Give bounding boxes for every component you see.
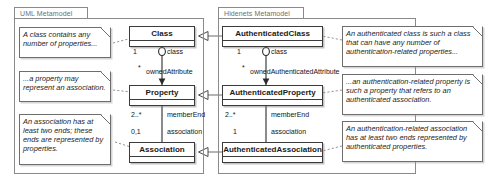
note-hidenets-class-text: An authenticated class is such a class t…	[346, 29, 470, 56]
uml-diagram-canvas: UML Metamodel Hidenets Metamodel Class P…	[0, 0, 487, 187]
class-box-property[interactable]: Property	[129, 85, 195, 106]
class-name-class: Class	[130, 27, 194, 41]
note-hidenets-property-text: ...an authentication-related property is…	[346, 77, 470, 104]
multiplicity-class-left: 1	[133, 48, 137, 56]
multiplicity-member-end-left: 2..*	[131, 111, 142, 119]
multiplicity-member-end-right: 2..*	[225, 111, 236, 119]
note-hidenets-class[interactable]: An authenticated class is such a class t…	[342, 26, 483, 67]
multiplicity-association-right: 1	[233, 128, 237, 136]
note-uml-association[interactable]: An association has at least two ends; th…	[19, 114, 111, 165]
note-uml-class[interactable]: A class contains any number of propertie…	[19, 27, 111, 58]
role-label-owned-attribute-right: ownedAuthenticatedAttribute	[250, 68, 340, 76]
class-box-authenticatedassociation[interactable]: AuthenticatedAssociation	[222, 142, 323, 163]
class-compartment	[130, 41, 194, 46]
package-tab-uml: UML Metamodel	[14, 7, 88, 18]
note-uml-class-text: A class contains any number of propertie…	[23, 30, 97, 48]
class-box-association[interactable]: Association	[129, 142, 195, 163]
class-name-property: Property	[130, 86, 194, 100]
note-hidenets-association-text: An authentication-related association ha…	[346, 124, 467, 151]
role-label-class-right: class	[271, 48, 287, 56]
class-name-authenticatedassociation: AuthenticatedAssociation	[223, 143, 322, 157]
class-name-association: Association	[130, 143, 194, 157]
multiplicity-association-left: 0,1	[131, 128, 141, 136]
class-name-authenticatedclass: AuthenticatedClass	[223, 27, 322, 41]
multiplicity-class-right: 1	[237, 48, 241, 56]
role-label-member-end-right: memberEnd	[271, 111, 309, 119]
class-compartment	[223, 157, 322, 162]
role-label-association-right: association	[271, 128, 306, 136]
class-compartment	[130, 100, 194, 105]
note-uml-property[interactable]: ...a property may represent an associati…	[19, 71, 111, 102]
package-tab-uml-label: UML Metamodel	[20, 10, 72, 17]
multiplicity-owned-attribute-right: *	[242, 64, 245, 72]
class-box-authenticatedproperty[interactable]: AuthenticatedProperty	[222, 85, 323, 106]
class-compartment	[223, 41, 322, 46]
role-label-owned-attribute-left: ownedAttribute	[146, 68, 193, 76]
note-uml-property-text: ...a property may represent an associati…	[23, 74, 106, 92]
note-hidenets-association[interactable]: An authentication-related association ha…	[342, 121, 483, 162]
package-tab-hidenets: Hidenets Metamodel	[218, 7, 304, 18]
multiplicity-owned-attribute-left: *	[138, 64, 141, 72]
class-compartment	[130, 157, 194, 162]
note-hidenets-property[interactable]: ...an authentication-related property is…	[342, 74, 483, 115]
note-uml-association-text: An association has at least two ends; th…	[23, 117, 103, 153]
package-tab-hidenets-label: Hidenets Metamodel	[224, 10, 290, 17]
role-label-member-end-left: memberEnd	[167, 111, 205, 119]
class-compartment	[223, 100, 322, 105]
class-box-authenticatedclass[interactable]: AuthenticatedClass	[222, 26, 323, 47]
role-label-class-left: class	[167, 48, 183, 56]
class-name-authenticatedproperty: AuthenticatedProperty	[223, 86, 322, 100]
class-box-class[interactable]: Class	[129, 26, 195, 47]
role-label-association-left: association	[167, 128, 202, 136]
